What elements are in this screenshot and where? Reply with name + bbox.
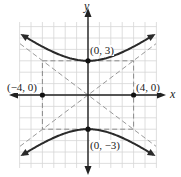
x-axis-label: x xyxy=(170,88,175,100)
label-point-left: (−4, 0) xyxy=(7,82,37,93)
label-point-right: (4, 0) xyxy=(136,82,160,93)
label-point-bottom: (0, −3) xyxy=(90,140,120,151)
label-point-top: (0, 3) xyxy=(90,45,114,56)
hyperbola-diagram: y x (0, 3) (0, −3) (−4, 0) (4, 0) xyxy=(0,0,181,177)
point-right xyxy=(131,92,136,97)
y-axis-label: y xyxy=(84,0,89,12)
y-axis-down-arrow-icon xyxy=(85,166,92,175)
point-vertex-top xyxy=(85,58,90,63)
point-vertex-bottom xyxy=(85,127,90,132)
point-left xyxy=(40,92,45,97)
